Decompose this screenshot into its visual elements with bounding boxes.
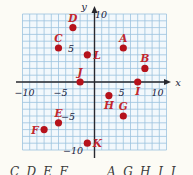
point-label-K: K	[92, 137, 103, 149]
y-tick-label-5: 5	[68, 43, 74, 54]
point-label-H: H	[103, 99, 115, 111]
point-C	[55, 44, 62, 51]
point-label-C: C	[54, 32, 63, 44]
x-tick-label--5: −5	[53, 87, 67, 98]
x-axis-arrowhead	[164, 79, 171, 85]
point-G	[120, 112, 127, 119]
point-J	[77, 78, 84, 85]
point-E	[55, 119, 62, 126]
point-label-D: D	[67, 12, 78, 24]
y-axis-label: y	[80, 1, 87, 12]
point-F	[41, 126, 48, 133]
point-label-A: A	[118, 32, 127, 44]
point-D	[69, 24, 76, 31]
point-A	[120, 44, 127, 51]
x-tick-label--10: −10	[14, 87, 34, 98]
x-tick-label-10: 10	[151, 87, 163, 98]
point-K	[84, 140, 91, 147]
caption-fragment-left: C, D, E, F	[10, 165, 68, 175]
x-tick-label-5: 5	[118, 87, 124, 98]
coordinate-plane: xy−10−5510105−5−10ABCDEFGHIJKL	[0, 0, 193, 162]
y-tick-label--5: −5	[61, 111, 75, 122]
point-L	[84, 51, 91, 58]
y-tick-label-10: 10	[95, 9, 107, 20]
textbook-figure: xy−10−5510105−5−10ABCDEFGHIJKL C, D, E, …	[0, 0, 193, 175]
point-label-L: L	[93, 49, 101, 61]
y-tick-label--10: −10	[63, 145, 83, 156]
x-axis-label: x	[175, 77, 181, 88]
point-label-G: G	[119, 100, 128, 112]
point-label-J: J	[76, 66, 84, 78]
caption-fragment-right: A, G, H, I, J	[107, 165, 175, 175]
point-B	[141, 65, 148, 72]
point-label-E: E	[53, 107, 63, 119]
point-label-B: B	[139, 52, 149, 64]
